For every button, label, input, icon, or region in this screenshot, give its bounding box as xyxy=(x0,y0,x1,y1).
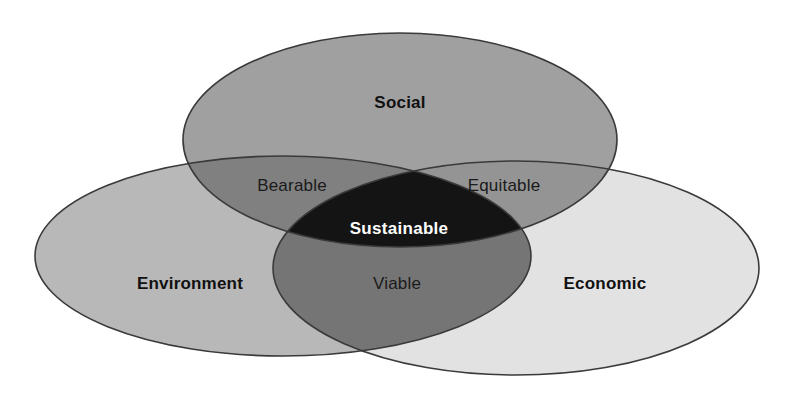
bearable-label: Bearable xyxy=(257,176,327,195)
social-label: Social xyxy=(374,93,425,112)
viable-label: Viable xyxy=(373,274,421,293)
venn-diagram-canvas: Social Environment Economic Bearable Equ… xyxy=(0,0,793,395)
equitable-label: Equitable xyxy=(468,176,541,195)
venn-diagram-svg: Social Environment Economic Bearable Equ… xyxy=(0,0,793,395)
environment-label: Environment xyxy=(137,274,243,293)
economic-label: Economic xyxy=(564,274,647,293)
sustainable-label: Sustainable xyxy=(350,219,449,238)
